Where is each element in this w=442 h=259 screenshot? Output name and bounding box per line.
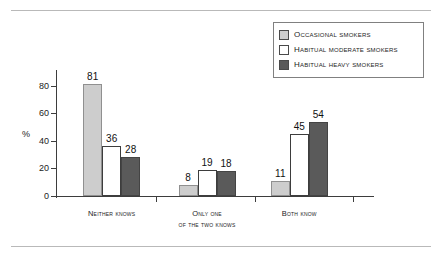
bar bbox=[121, 157, 140, 196]
top-divider-rule bbox=[11, 10, 431, 11]
legend-label-habitual-moderate-smokers: Habitual moderate smokers bbox=[294, 45, 398, 55]
bar-value-label: 28 bbox=[115, 144, 146, 155]
category-label-line2: of the two knows bbox=[152, 219, 262, 230]
y-axis-tick-label: 60 bbox=[23, 109, 49, 118]
bar bbox=[309, 122, 328, 196]
x-axis-line bbox=[56, 196, 374, 197]
category-label-line1: Both know bbox=[244, 208, 354, 219]
legend-item: Habitual heavy smokers bbox=[279, 58, 418, 72]
legend-label-occasional-smokers: Occasional smokers bbox=[294, 30, 371, 40]
bar-value-label: 18 bbox=[211, 158, 242, 169]
y-axis-tick-label: 80 bbox=[23, 82, 49, 91]
bottom-divider-rule bbox=[11, 246, 431, 247]
x-axis-category-label: Both know bbox=[244, 208, 354, 219]
bar bbox=[271, 181, 290, 196]
legend-item: Habitual moderate smokers bbox=[279, 43, 418, 57]
bar-value-label: 54 bbox=[303, 109, 334, 120]
figure-container: Occasional smokers Habitual moderate smo… bbox=[0, 0, 442, 259]
bar bbox=[198, 170, 217, 196]
y-axis-tick-label: 20 bbox=[23, 164, 49, 173]
y-axis-tick-label-wrap: 80 bbox=[19, 82, 49, 91]
x-axis-group-tick bbox=[353, 197, 354, 202]
y-axis-tick-label: 40 bbox=[23, 137, 49, 146]
y-axis-tick-label: 0 bbox=[23, 192, 49, 201]
bar-value-label: 36 bbox=[96, 133, 127, 144]
legend-label-habitual-heavy-smokers: Habitual heavy smokers bbox=[294, 60, 384, 70]
y-axis-tick-label-wrap: 40 bbox=[19, 137, 49, 146]
bar bbox=[290, 134, 309, 196]
category-label-line1: Neither knows bbox=[57, 208, 167, 219]
x-axis-group-tick bbox=[255, 197, 256, 202]
legend-swatch-occasional-smokers bbox=[279, 30, 289, 40]
x-axis-category-label: Neither knows bbox=[57, 208, 167, 219]
x-axis-group-tick bbox=[156, 197, 157, 202]
y-axis-tick-label-wrap: 0 bbox=[19, 192, 49, 201]
plot-area: 81362881918114554 bbox=[56, 72, 374, 196]
chart-legend: Occasional smokers Habitual moderate smo… bbox=[273, 22, 424, 78]
y-axis-tick-label-wrap: 60 bbox=[19, 109, 49, 118]
legend-item: Occasional smokers bbox=[279, 28, 418, 42]
bar-value-label: 81 bbox=[77, 71, 108, 82]
y-axis-tick bbox=[51, 196, 57, 197]
bar bbox=[179, 185, 198, 196]
legend-swatch-habitual-moderate-smokers bbox=[279, 45, 289, 55]
bar bbox=[217, 171, 236, 196]
legend-swatch-habitual-heavy-smokers bbox=[279, 60, 289, 70]
y-axis-tick-label-wrap: 20 bbox=[19, 164, 49, 173]
